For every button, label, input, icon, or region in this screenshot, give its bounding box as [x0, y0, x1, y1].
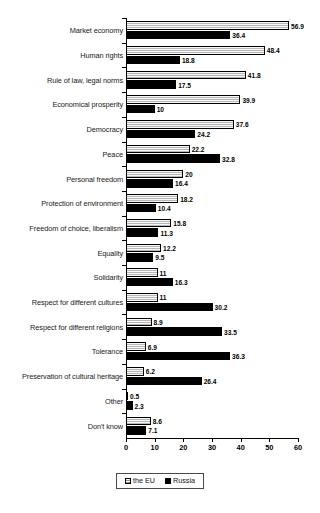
bar-rect — [126, 303, 213, 312]
bar-rect — [126, 253, 153, 262]
chart-row: Solidarity1116.3 — [0, 265, 320, 290]
category-label: Rule of law, legal norms — [3, 75, 123, 84]
bar-value-label: 6.2 — [144, 368, 155, 375]
bar-rect — [126, 31, 230, 40]
bar-eu: 48.4 — [126, 46, 316, 55]
category-label: Market economy — [3, 26, 123, 35]
row-bars: 12.29.5 — [126, 240, 316, 265]
bar-rect — [126, 145, 190, 154]
chart-row: Equality12.29.5 — [0, 240, 320, 265]
bar-value-label: 8.9 — [152, 319, 163, 326]
bar-russia: 16.3 — [126, 278, 316, 287]
bar-russia: 26.4 — [126, 377, 316, 386]
bar-eu: 41.8 — [126, 71, 316, 80]
bar-value-label: 36.4 — [230, 32, 245, 39]
bar-value-label: 10 — [155, 106, 164, 113]
bar-rect — [126, 80, 176, 89]
chart-row: Peace22.232.8 — [0, 142, 320, 167]
bar-rect — [126, 401, 133, 410]
row-bars: 22.232.8 — [126, 142, 316, 167]
category-label: Preservation of cultural heritage — [3, 372, 123, 381]
bar-rect — [126, 244, 161, 253]
bar-value-label: 11.3 — [158, 229, 172, 236]
bar-value-label: 0.5 — [128, 393, 139, 400]
x-tick-mark — [183, 438, 184, 442]
bar-value-label: 36.3 — [230, 353, 245, 360]
bar-value-label: 18.8 — [180, 56, 195, 63]
legend-label-russia: Russia — [173, 477, 195, 485]
row-bars: 48.418.8 — [126, 43, 316, 68]
chart-row: Respect for different cultures1130.2 — [0, 290, 320, 315]
category-label: Human rights — [3, 51, 123, 60]
bar-rect — [126, 417, 151, 426]
bar-value-label: 11 — [158, 294, 167, 301]
bar-rect — [126, 318, 152, 327]
x-axis-ticks: 0102030405060 — [0, 438, 320, 456]
plot-area: Market economy56.936.4Human rights48.418… — [0, 18, 320, 438]
bar-rect — [126, 46, 265, 55]
x-tick-label: 60 — [294, 443, 302, 452]
bar-rect — [126, 56, 180, 65]
bar-russia: 2.3 — [126, 401, 316, 410]
bar-value-label: 10.4 — [156, 205, 171, 212]
bar-value-label: 24.2 — [195, 130, 210, 137]
category-label: Equality — [3, 248, 123, 257]
bar-eu: 11 — [126, 293, 316, 302]
row-bars: 1116.3 — [126, 265, 316, 290]
chart-row: Economical prosperity39.910 — [0, 92, 320, 117]
bar-rect — [126, 204, 156, 213]
bar-value-label: 7.1 — [146, 427, 157, 434]
bar-russia: 16.4 — [126, 179, 316, 188]
chart-legend: the EU Russia — [116, 473, 204, 489]
row-bars: 6.936.3 — [126, 339, 316, 364]
x-tick-label: 10 — [151, 443, 159, 452]
bar-value-label: 9.5 — [153, 254, 164, 261]
bar-eu: 0.5 — [126, 392, 316, 401]
bar-rect — [126, 21, 289, 30]
bar-russia: 18.8 — [126, 56, 316, 65]
chart-row: Market economy56.936.4 — [0, 18, 320, 43]
bar-rect — [126, 342, 146, 351]
bar-russia: 10.4 — [126, 204, 316, 213]
bar-rect — [126, 120, 234, 129]
chart-row: Rule of law, legal norms41.817.5 — [0, 67, 320, 92]
bar-rect — [126, 95, 240, 104]
category-label: Protection of environment — [3, 199, 123, 208]
bar-value-label: 33.5 — [222, 328, 237, 335]
bar-value-label: 30.2 — [213, 303, 228, 310]
bar-eu: 22.2 — [126, 145, 316, 154]
bar-russia: 30.2 — [126, 303, 316, 312]
bar-eu: 11 — [126, 268, 316, 277]
bar-rect — [126, 130, 195, 139]
bar-rect — [126, 426, 146, 435]
bar-value-label: 2.3 — [133, 402, 144, 409]
row-bars: 8.67.1 — [126, 413, 316, 438]
category-label: Freedom of choice, liberalism — [3, 223, 123, 232]
bar-rect — [126, 278, 173, 287]
bar-value-label: 6.9 — [146, 343, 157, 350]
bar-value-label: 17.5 — [176, 81, 191, 88]
bar-rect — [126, 194, 178, 203]
chart-row: Freedom of choice, liberalism15.811.3 — [0, 216, 320, 241]
category-rows: Market economy56.936.4Human rights48.418… — [0, 18, 320, 438]
bar-eu: 37.6 — [126, 120, 316, 129]
bar-eu: 12.2 — [126, 244, 316, 253]
bar-value-label: 39.9 — [240, 96, 255, 103]
row-bars: 39.910 — [126, 92, 316, 117]
row-bars: 41.817.5 — [126, 67, 316, 92]
bar-rect — [126, 377, 202, 386]
bar-russia: 33.5 — [126, 327, 316, 336]
bar-rect — [126, 219, 171, 228]
category-label: Other — [3, 396, 123, 405]
bar-eu: 39.9 — [126, 95, 316, 104]
bar-eu: 8.6 — [126, 417, 316, 426]
bar-eu: 15.8 — [126, 219, 316, 228]
bar-value-label: 37.6 — [234, 121, 249, 128]
bar-value-label: 11 — [158, 269, 167, 276]
legend-item-russia: Russia — [165, 477, 195, 485]
bar-rect — [126, 268, 158, 277]
x-tick-label: 0 — [124, 443, 128, 452]
x-tick-label: 20 — [179, 443, 187, 452]
bar-value-label: 8.6 — [151, 417, 162, 424]
bar-rect — [126, 293, 158, 302]
